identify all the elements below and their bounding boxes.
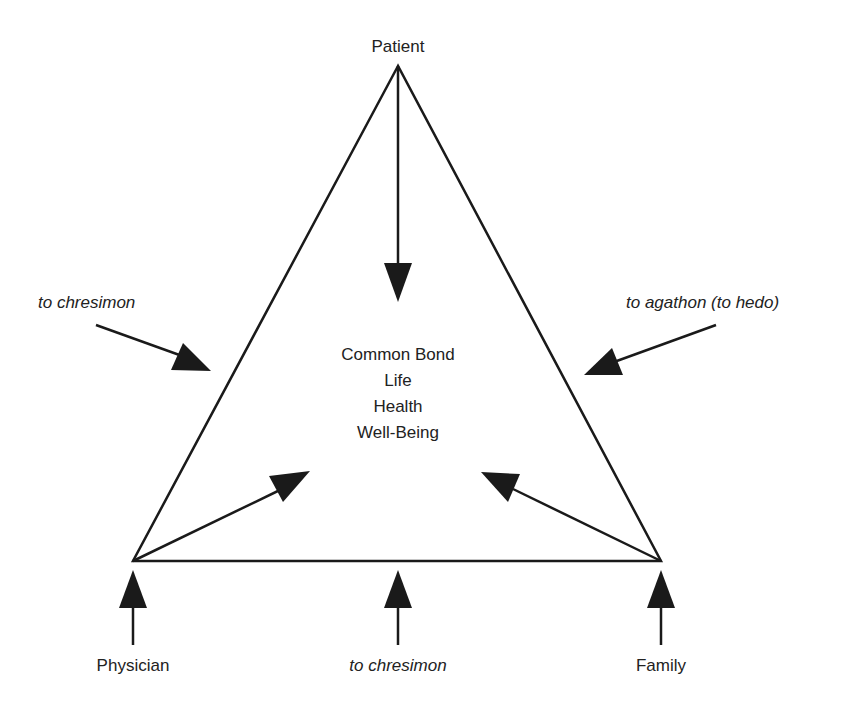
- patient-arrow-icon: [384, 66, 412, 302]
- triangle-diagram: Patient Physician Family to chresimon to…: [0, 0, 843, 704]
- vertex-label-physician: Physician: [97, 656, 170, 675]
- side-label-bottom: to chresimon: [349, 656, 446, 675]
- vertex-label-patient: Patient: [372, 37, 425, 56]
- left-side-arrow-icon: [96, 325, 211, 371]
- right-side-arrow-icon: [584, 325, 716, 375]
- physician-inner-arrow-icon: [133, 471, 310, 561]
- center-text-well-being: Well-Being: [357, 423, 439, 442]
- family-up-arrow-icon: [647, 570, 675, 645]
- center-text-common-bond: Common Bond: [341, 345, 454, 364]
- physician-up-arrow-icon: [119, 570, 147, 645]
- family-inner-arrow-icon: [481, 472, 661, 561]
- side-label-right: to agathon (to hedo): [626, 293, 779, 312]
- vertex-label-family: Family: [636, 656, 687, 675]
- side-label-left: to chresimon: [38, 293, 135, 312]
- center-text-life: Life: [384, 371, 411, 390]
- bottom-up-arrow-icon: [384, 570, 412, 645]
- center-text-health: Health: [373, 397, 422, 416]
